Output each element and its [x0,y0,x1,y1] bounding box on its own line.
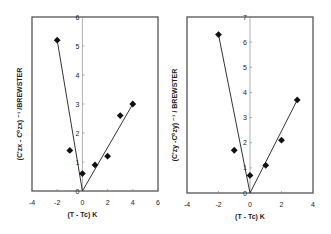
y-tick-label: 6 [75,14,79,21]
x-tick-label: 0 [80,199,84,206]
y-tick-label: 4 [75,72,79,79]
diamond-marker [129,101,136,108]
y-tick-label: 6 [243,39,247,46]
y-tick-label: 0 [243,190,247,197]
x-tick-label: -2 [215,201,221,208]
y-tick-label: 3 [243,114,247,121]
diamond-marker [247,172,254,179]
diamond-marker [104,153,111,160]
diamond-marker [215,31,222,38]
x-tick-label: 0 [248,201,252,208]
diamond-marker [54,37,61,44]
fit-line [250,100,297,193]
x-axis-title: (T - Tc) K [235,213,265,221]
y-tick-label: 5 [75,43,79,50]
charts-canvas: 0123456-4-20246(T - Tc) K(C'zx - C⁰zx) ⁻… [0,0,331,234]
y-tick-label: 5 [243,64,247,71]
x-tick-label: -4 [184,201,190,208]
diamond-marker [294,97,301,104]
right-chart: 01234567-4-2024(T - Tc) K(C'zy -C⁰zy) ⁻¹… [171,14,315,222]
y-tick-label: 7 [243,14,247,21]
fit-line [82,104,132,191]
diamond-marker [92,162,99,169]
diamond-marker [117,112,124,119]
y-axis-title: (C'zx - C⁰zx) ⁻¹ /BREWSTER [16,68,24,161]
x-tick-label: 4 [311,201,315,208]
diamond-marker [66,147,73,154]
y-tick-label: 4 [243,89,247,96]
y-axis-title: (C'zy -C⁰zy) ⁻¹ / BREWSTER [171,69,179,162]
y-tick-label: 2 [75,130,79,137]
y-tick-label: 2 [243,139,247,146]
diamond-marker [231,147,238,154]
x-tick-label: -2 [54,199,60,206]
left-chart: 0123456-4-20246(T - Tc) K(C'zx - C⁰zx) ⁻… [16,14,160,220]
x-tick-label: -4 [29,199,35,206]
x-tick-label: 2 [106,199,110,206]
diamond-marker [278,137,285,144]
y-tick-label: 0 [75,188,79,195]
x-tick-label: 2 [280,201,284,208]
x-tick-label: 6 [156,199,160,206]
y-tick-label: 3 [75,101,79,108]
x-tick-label: 4 [131,199,135,206]
fit-line [57,40,82,191]
x-axis-title: (T - Tc) K [67,211,97,219]
